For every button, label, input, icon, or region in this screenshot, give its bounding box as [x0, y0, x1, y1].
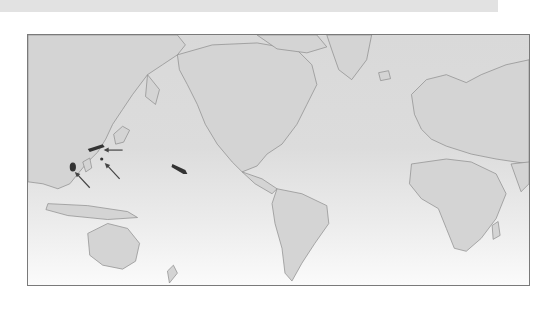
- indonesia: [46, 204, 138, 220]
- hawaii-marker: [171, 164, 187, 174]
- arrow-dot: [105, 163, 120, 179]
- madagascar: [492, 222, 500, 240]
- greenland: [327, 35, 372, 80]
- kamchatka: [146, 75, 160, 105]
- japan: [114, 126, 130, 144]
- australia: [88, 223, 140, 269]
- iceland: [379, 71, 391, 81]
- map-canvas: [28, 35, 529, 285]
- philippines-marker: [70, 163, 75, 171]
- new-zealand: [167, 265, 177, 283]
- western-pacific-dot: [100, 157, 103, 160]
- top-band: [0, 0, 498, 12]
- india: [511, 162, 529, 192]
- south-america: [272, 189, 329, 281]
- world-map: [27, 34, 530, 286]
- africa: [409, 159, 506, 251]
- arrow-philippines: [75, 172, 90, 188]
- central-america: [242, 172, 277, 194]
- europe: [411, 60, 529, 164]
- arrow-japan: [104, 148, 123, 153]
- north-america: [177, 43, 316, 172]
